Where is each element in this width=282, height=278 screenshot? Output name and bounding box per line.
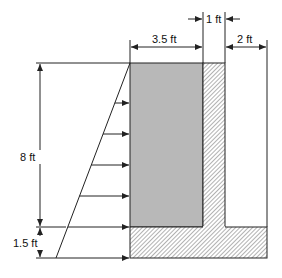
pressure-triangle-edge xyxy=(56,63,130,258)
wall-footing xyxy=(130,227,267,258)
retaining-wall-diagram: 8 ft 1.5 ft 3.5 ft 1 ft 2 ft xyxy=(0,0,282,278)
label-wall-height: 8 ft xyxy=(20,151,35,163)
soil-backfill xyxy=(130,63,203,227)
label-footing-thickness: 1.5 ft xyxy=(13,237,37,249)
label-toe-width: 2 ft xyxy=(237,33,252,45)
pressure-arrows xyxy=(56,103,129,258)
label-stem-thickness: 1 ft xyxy=(206,13,221,25)
label-soil-width: 3.5 ft xyxy=(152,33,176,45)
wall-stem xyxy=(203,63,225,227)
